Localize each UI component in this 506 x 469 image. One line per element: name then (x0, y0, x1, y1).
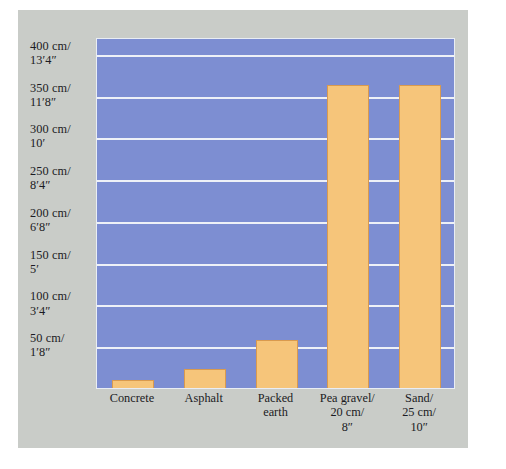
y-axis-tick-label: 250 cm/8′4″ (30, 164, 96, 192)
bar-series (97, 39, 454, 388)
y-tick-line-2: 8′4″ (30, 178, 96, 192)
y-axis-tick-label: 300 cm/10′ (30, 122, 96, 150)
y-tick-line-1: 200 cm/ (30, 206, 96, 220)
y-axis-tick-label: 150 cm/5′ (30, 248, 96, 276)
y-axis-tick-label: 400 cm/13′4″ (30, 39, 96, 67)
y-tick-line-2: 1′8″ (30, 345, 96, 359)
y-axis-tick-label: 350 cm/11′8″ (30, 81, 96, 109)
y-tick-line-2: 3′4″ (30, 304, 96, 318)
bar (256, 340, 298, 388)
y-axis: 400 cm/13′4″350 cm/11′8″300 cm/10′250 cm… (18, 10, 96, 448)
y-axis-tick-label: 100 cm/3′4″ (30, 289, 96, 317)
plot-area (96, 38, 455, 389)
bar (112, 380, 154, 388)
bar (327, 85, 369, 388)
x-tick-line: Packed (240, 391, 312, 405)
y-tick-line-1: 350 cm/ (30, 81, 96, 95)
x-axis-tick-label: Asphalt (168, 391, 240, 405)
bar (184, 369, 226, 388)
x-tick-line: Concrete (96, 391, 168, 405)
x-tick-line: Sand/ (383, 391, 455, 405)
y-tick-line-1: 400 cm/ (30, 39, 96, 53)
y-tick-line-1: 150 cm/ (30, 248, 96, 262)
x-axis-tick-label: Pea gravel/20 cm/8″ (311, 391, 383, 434)
y-tick-line-1: 300 cm/ (30, 122, 96, 136)
chart-figure: 400 cm/13′4″350 cm/11′8″300 cm/10′250 cm… (18, 10, 468, 448)
x-tick-line: Pea gravel/ (311, 391, 383, 405)
x-axis-tick-label: Concrete (96, 391, 168, 405)
y-tick-line-2: 13′4″ (30, 53, 96, 67)
y-axis-tick-label: 200 cm/6′8″ (30, 206, 96, 234)
y-axis-tick-label: 50 cm/1′8″ (30, 331, 96, 359)
y-tick-line-2: 6′8″ (30, 220, 96, 234)
y-tick-line-1: 250 cm/ (30, 164, 96, 178)
y-tick-line-1: 50 cm/ (30, 331, 96, 345)
x-tick-line: 25 cm/ (383, 405, 455, 419)
bar (399, 85, 441, 388)
y-tick-line-2: 11′8″ (30, 95, 96, 109)
x-tick-line: 20 cm/ (311, 405, 383, 419)
x-axis-tick-label: Sand/25 cm/10″ (383, 391, 455, 434)
x-tick-line: Asphalt (168, 391, 240, 405)
x-tick-line: earth (240, 405, 312, 419)
x-axis: ConcreteAsphaltPackedearthPea gravel/20 … (96, 391, 455, 448)
y-tick-line-2: 5′ (30, 262, 96, 276)
y-tick-line-1: 100 cm/ (30, 289, 96, 303)
x-tick-line: 8″ (311, 420, 383, 434)
x-tick-line: 10″ (383, 420, 455, 434)
y-tick-line-2: 10′ (30, 136, 96, 150)
x-axis-tick-label: Packedearth (240, 391, 312, 420)
